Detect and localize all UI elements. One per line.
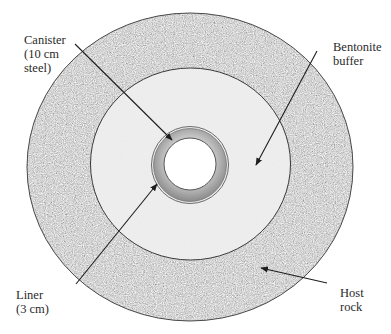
bentonite-label-line2: buffer: [333, 54, 382, 68]
liner-label: Liner (3 cm): [16, 288, 49, 316]
canister-and-liner: [152, 127, 229, 204]
canister-label-line1: Canister: [24, 33, 66, 47]
bentonite-buffer-label: Bentonite buffer: [333, 40, 382, 68]
canister-label-line3: steel): [24, 61, 66, 75]
host-rock-label: Host rock: [340, 286, 364, 314]
canister-label: Canister (10 cm steel): [24, 33, 66, 75]
liner-label-line2: (3 cm): [16, 302, 49, 316]
host-rock-label-line2: rock: [340, 300, 364, 314]
host-rock-label-line1: Host: [340, 286, 364, 300]
liner-label-line1: Liner: [16, 288, 49, 302]
bentonite-label-line1: Bentonite: [333, 40, 382, 54]
canister-label-line2: (10 cm: [24, 47, 66, 61]
